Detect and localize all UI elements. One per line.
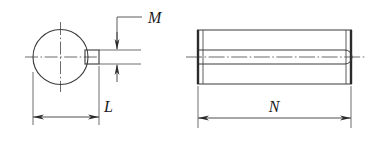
technical-drawing-canvas: M L: [0, 0, 384, 159]
side-view-group: [186, 30, 366, 84]
dimension-n-label: N: [268, 98, 281, 115]
dimension-m-label: M: [147, 9, 163, 26]
dimension-l-group: L: [33, 66, 113, 125]
dimension-l-label: L: [103, 98, 113, 115]
engineering-drawing-svg: M L: [0, 0, 384, 159]
end-view-group: [25, 22, 141, 92]
dimension-m-group: M: [115, 9, 163, 82]
dimension-n-group: N: [198, 86, 351, 128]
